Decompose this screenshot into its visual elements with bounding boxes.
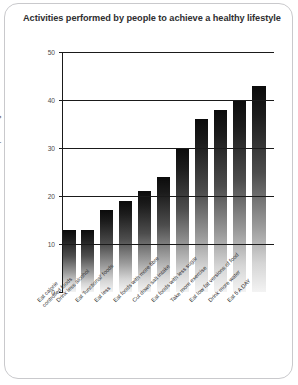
gridline-30 xyxy=(62,148,274,149)
y-tick-label-10: 10 xyxy=(35,241,55,248)
y-tick-label-50: 50 xyxy=(35,49,55,56)
chart-title: Activities performed by people to achiev… xyxy=(23,13,285,24)
gridline-10 xyxy=(62,244,274,245)
chart-card: Activities performed by people to achiev… xyxy=(4,3,293,379)
gridline-20 xyxy=(62,196,274,197)
plot-area xyxy=(62,52,274,292)
gridline-50 xyxy=(62,52,274,53)
bar-eat-5-a-day xyxy=(252,86,266,292)
y-tick-label-30: 30 xyxy=(35,145,55,152)
gridline-40 xyxy=(62,100,274,101)
bar-eat-less xyxy=(119,201,132,292)
y-tick-label-20: 20 xyxy=(35,193,55,200)
y-tick-label-40: 40 xyxy=(35,97,55,104)
